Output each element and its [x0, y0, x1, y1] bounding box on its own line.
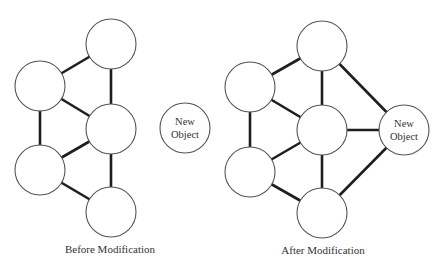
after-node-B: [225, 62, 275, 112]
after-node-A: [297, 21, 347, 71]
after-node-D: [225, 147, 275, 197]
before-modification-caption: Before Modification: [65, 243, 156, 255]
before-node-E: [86, 187, 136, 237]
after-modification-caption: After Modification: [281, 244, 365, 256]
before-nodes: [15, 19, 136, 237]
after-node-C: [297, 105, 347, 155]
before-node-D: [15, 145, 65, 195]
after-node-E: [297, 188, 347, 238]
standalone-new-object-label-line: Object: [171, 129, 199, 140]
standalone-new-object-label-line: New: [175, 116, 195, 127]
diagram-canvas: Before Modification NewObject NewObject …: [0, 0, 443, 261]
after-modification-graph: NewObject After Modification: [225, 21, 429, 256]
before-node-B: [15, 61, 65, 111]
standalone-nodes: NewObject: [160, 103, 210, 153]
before-modification-graph: Before Modification: [15, 19, 156, 255]
new-object-standalone: NewObject: [160, 103, 210, 153]
after-new-object-label-line: New: [394, 118, 414, 129]
after-new-object-label-line: Object: [390, 131, 418, 142]
before-node-A: [86, 19, 136, 69]
before-node-C: [86, 104, 136, 154]
after-nodes: NewObject: [225, 21, 429, 238]
